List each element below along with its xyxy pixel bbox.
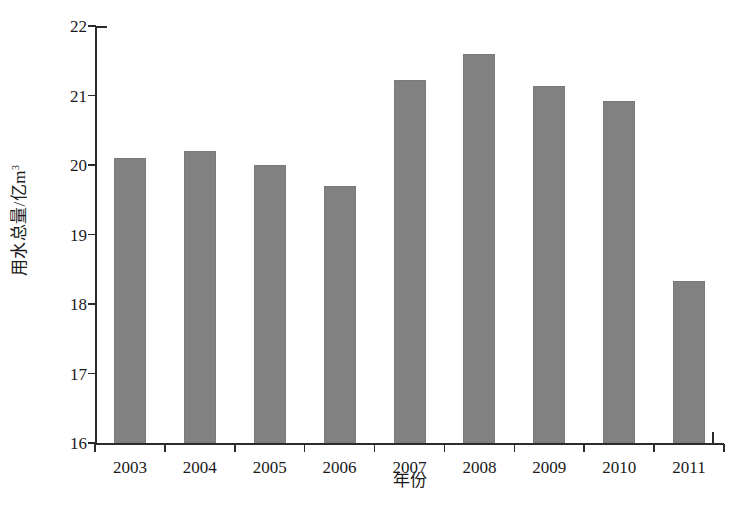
bar[interactable] xyxy=(114,158,146,443)
bar[interactable] xyxy=(324,186,356,443)
y-axis-top-cap xyxy=(95,26,107,28)
y-axis-tick-label: 19 xyxy=(47,226,87,243)
y-axis-tick-label: 17 xyxy=(47,365,87,382)
x-axis-right-cap xyxy=(712,432,714,444)
x-axis-tick xyxy=(374,444,376,452)
x-axis-tick xyxy=(444,444,446,452)
x-axis-tick xyxy=(723,444,725,452)
x-axis-tick xyxy=(653,444,655,452)
x-axis-tick xyxy=(514,444,516,452)
x-axis-tick xyxy=(304,444,306,452)
bar[interactable] xyxy=(184,151,216,443)
y-axis-tick xyxy=(88,25,96,27)
bar[interactable] xyxy=(463,54,495,443)
bar[interactable] xyxy=(603,101,635,443)
x-axis-title: 年份 xyxy=(95,466,724,491)
y-axis-tick-label: 21 xyxy=(47,87,87,104)
x-axis-tick xyxy=(94,444,96,452)
y-axis-tick xyxy=(88,373,96,375)
x-axis-tick xyxy=(164,444,166,452)
y-axis-title-text: 用水总量/亿m3 xyxy=(6,164,31,276)
y-axis-tick xyxy=(88,164,96,166)
plot-area: 16171819202122 2003200420052006200720082… xyxy=(95,26,724,443)
y-axis-tick-label: 18 xyxy=(47,296,87,313)
bar-chart-figure: 用水总量/亿m3 16171819202122 2003200420052006… xyxy=(0,0,746,511)
bar[interactable] xyxy=(533,86,565,443)
bar[interactable] xyxy=(394,80,426,443)
y-axis-tick xyxy=(88,234,96,236)
y-axis-tick xyxy=(88,303,96,305)
y-axis-tick-label: 16 xyxy=(47,435,87,452)
bar[interactable] xyxy=(673,281,705,443)
bar[interactable] xyxy=(254,165,286,443)
x-axis-tick xyxy=(583,444,585,452)
y-axis-tick-label: 20 xyxy=(47,157,87,174)
y-axis-tick xyxy=(88,95,96,97)
y-axis-tick-label: 22 xyxy=(47,18,87,35)
y-axis-title: 用水总量/亿m3 xyxy=(0,0,36,440)
x-axis-tick xyxy=(234,444,236,452)
x-axis-line xyxy=(95,443,724,445)
